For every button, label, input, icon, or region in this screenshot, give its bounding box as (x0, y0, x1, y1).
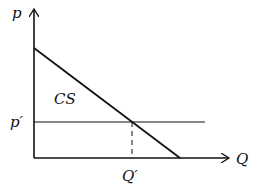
consumer-surplus-label: CS (54, 90, 76, 108)
price-label: p′ (10, 113, 24, 131)
consumer-surplus-diagram: p Q p′ Q′ CS (0, 0, 261, 188)
y-axis-label: p (12, 4, 22, 22)
quantity-label: Q′ (122, 167, 138, 185)
x-axis-label: Q (236, 150, 248, 168)
